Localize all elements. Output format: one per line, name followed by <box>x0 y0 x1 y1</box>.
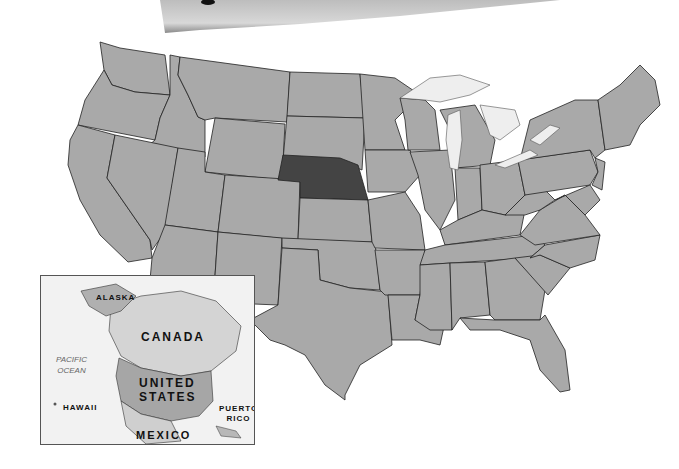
inset-puerto-rico[interactable] <box>216 426 241 438</box>
state-mississippi[interactable] <box>415 263 452 330</box>
lake-superior <box>400 75 490 102</box>
inset-north-america: ALASKA CANADA PACIFIC OCEAN UNITED STATE… <box>40 275 255 445</box>
label-hawaii: HAWAII <box>63 403 97 412</box>
state-missouri[interactable] <box>368 192 425 250</box>
state-florida[interactable] <box>460 315 570 392</box>
label-states: STATES <box>139 390 197 404</box>
inset-hawaii[interactable] <box>54 403 57 406</box>
state-wisconsin[interactable] <box>400 98 440 150</box>
label-mexico: MEXICO <box>136 429 191 441</box>
state-arkansas[interactable] <box>375 250 425 295</box>
label-united: UNITED <box>139 376 196 390</box>
state-kansas[interactable] <box>298 198 372 242</box>
state-wyoming[interactable] <box>205 118 285 180</box>
state-new-york[interactable] <box>520 100 605 160</box>
state-colorado[interactable] <box>218 175 300 240</box>
label-alaska: ALASKA <box>96 293 135 302</box>
label-puerto-rico: PUERTO RICO <box>219 404 255 424</box>
state-north-dakota[interactable] <box>287 72 365 118</box>
label-canada: CANADA <box>141 330 205 344</box>
label-pacific-ocean: PACIFIC OCEAN <box>56 354 87 376</box>
state-new-england[interactable] <box>598 65 660 150</box>
